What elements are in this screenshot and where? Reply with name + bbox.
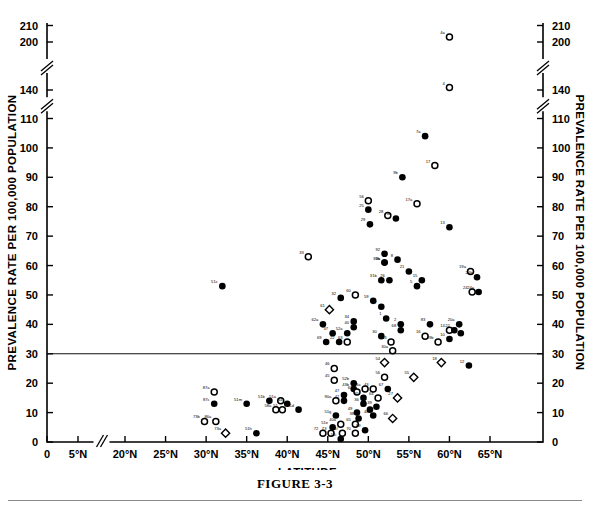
data-point: 87a [203,385,217,395]
data-point-label: 17a [406,197,414,202]
data-point-label: 46 [325,361,330,366]
data-point-label: 49 [348,406,353,411]
data-point-label: 30a [381,344,389,349]
y-tick-label-right: 20 [552,377,564,389]
data-point-label: 35 [354,391,359,396]
marker-filled-circle [350,318,357,325]
data-point-label: 44 [278,397,283,402]
marker-filled-circle [341,398,348,405]
data-point-label: 22 [330,335,335,340]
marker-open-circle [338,421,344,427]
marker-filled-circle [362,427,369,434]
y-tick-label-right: 50 [552,289,564,301]
marker-filled-circle [383,315,390,322]
marker-filled-circle [211,400,218,407]
data-point-label: 10 [440,332,445,337]
y-tick-label-left: 80 [26,201,38,213]
y-tick-label-left: 200 [20,36,38,48]
data-point-label: 19a [459,264,467,269]
marker-open-circle [305,254,311,260]
marker-filled-circle [446,336,453,343]
marker-filled-circle [253,430,260,437]
data-point-label: 72 [314,426,319,431]
data-point-label: 83 [421,317,426,322]
marker-filled-circle [446,224,453,231]
data-point-label: 67 [379,382,384,387]
data-point-label: 65 [346,417,351,422]
data-point-label: 66 [384,411,389,416]
y-tick-label-right: 70 [552,230,564,242]
marker-filled-circle [414,283,421,290]
data-point-label: 24a [467,285,475,290]
marker-open-diamond [221,429,229,437]
data-point-label: 56 [359,194,364,199]
marker-filled-circle [397,327,404,334]
marker-filled-circle [381,259,388,266]
marker-filled-circle [360,395,367,402]
data-point-label: 73b [193,414,201,419]
data-point-label: 63 [338,335,343,340]
data-point-label: 40 [345,320,350,325]
y-tick-label-left: 0 [32,436,38,448]
marker-open-circle [339,430,345,436]
data-point: 17a [406,197,420,207]
data-point: 51h [245,426,260,436]
x-tick-label: 60°N [437,448,462,460]
marker-filled-circle [370,412,377,419]
marker-open-circle [352,292,358,298]
data-point: 67 [379,382,391,392]
marker-open-circle [446,85,452,91]
marker-filled-circle [386,277,393,284]
y-tick-label-right: 0 [552,436,558,448]
marker-open-diamond [325,306,333,314]
marker-filled-circle [354,409,361,416]
x-tick-label: 45°N [315,448,340,460]
y-axis-title-left: PREVALENCE RATE PER 100,000 POPULATION [6,95,18,371]
data-point-label: 64 [369,391,374,396]
marker-filled-circle [474,274,481,281]
marker-filled-circle [475,289,482,296]
data-point: 33 [299,250,311,260]
marker-open-diamond [380,358,388,366]
marker-open-circle [365,198,371,204]
data-point-label: 33 [299,250,304,255]
marker-open-circle [390,348,396,354]
marker-filled-circle [365,206,372,213]
y-tick-label-left: 60 [26,260,38,272]
marker-open-diamond [410,373,418,381]
marker-open-circle [432,163,438,169]
data-point-label: 20a [448,317,456,322]
data-point-label: 21 [400,264,405,269]
data-point-label: 51g [324,409,332,414]
data-point: 1 [379,311,389,321]
marker-open-diamond [437,358,445,366]
data-point: 32 [332,291,344,301]
data-point-label: 51h [245,426,253,431]
data-point-label: 61 [320,303,325,308]
marker-filled-circle [323,339,330,346]
data-point-label: 89 [356,423,361,428]
data-point: 8 [391,253,401,263]
marker-filled-circle [295,406,302,413]
data-point-label: 56 [375,370,380,375]
data-point: 29 [361,217,373,227]
data-point-label: 37 [323,326,328,331]
marker-filled-circle [458,330,465,337]
data-point: 69 [317,335,329,345]
x-tick-label: 50°N [356,448,381,460]
marker-open-diamond [389,414,397,422]
data-point-label: 25 [359,203,364,208]
x-tick-label: 30°N [194,448,219,460]
marker-filled-circle [350,324,357,331]
data-point: 27 [388,391,401,402]
data-point-label: 51m [234,397,243,402]
data-point-label: 53 [382,335,387,340]
data-point-label: 51 [273,403,278,408]
data-point-label: 51e [321,420,329,425]
data-point: 30a [381,344,395,354]
y-tick-label-left: 50 [26,289,38,301]
marker-filled-circle [419,277,426,284]
data-point-label: 32 [332,291,337,296]
scatter-plot: 0010102020303040405050606070708080909010… [0,0,590,470]
data-point-label: 52b [342,376,350,381]
